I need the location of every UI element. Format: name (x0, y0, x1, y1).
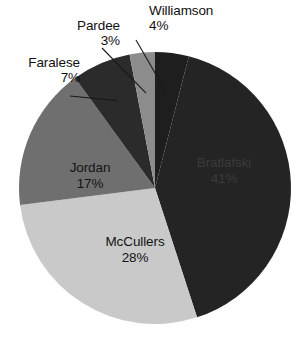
slice-label-mccullers-value: 28% (82, 250, 188, 266)
slice-label-mccullers: McCullers 28% (82, 234, 188, 265)
slice-label-mccullers-name: McCullers (82, 234, 188, 250)
pie-chart: Williamson 4% Pardee 3% Faralese 7% Brat… (0, 0, 302, 343)
slice-label-williamson-name: Williamson (149, 3, 259, 18)
slice-label-faralese-name: Faralese (2, 55, 80, 70)
slice-label-bratlafski: Bratlafski 41% (178, 155, 270, 186)
slice-label-faralese: Faralese 7% (2, 55, 80, 85)
slice-label-williamson: Williamson 4% (149, 3, 259, 33)
slice-label-jordan-value: 17% (48, 176, 132, 192)
slice-label-pardee: Pardee 3% (48, 18, 120, 48)
slice-label-pardee-value: 3% (48, 33, 120, 48)
slice-label-williamson-value: 4% (149, 18, 259, 33)
slice-label-jordan: Jordan 17% (48, 160, 132, 191)
slice-label-bratlafski-value: 41% (178, 171, 270, 187)
slice-label-bratlafski-name: Bratlafski (178, 155, 270, 171)
slice-label-jordan-name: Jordan (48, 160, 132, 176)
slice-label-faralese-value: 7% (2, 70, 80, 85)
slice-label-pardee-name: Pardee (48, 18, 120, 33)
